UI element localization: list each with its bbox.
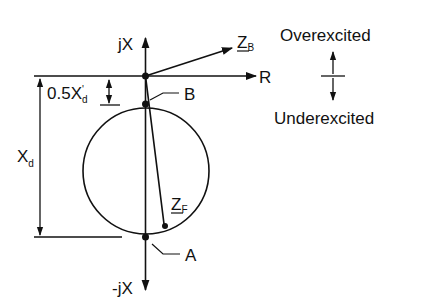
overexcited-label: Overexcited (280, 26, 371, 45)
impedance-diagram: R jX -jX 0.5X'd Xd ZB ZF B A Overexcited… (0, 0, 423, 301)
point-a (142, 234, 149, 241)
zf-label: ZF (171, 195, 188, 215)
b-leader-line (150, 93, 179, 100)
diameter-label: Xd (17, 147, 34, 169)
underexcited-label: Underexcited (274, 109, 374, 128)
r-axis-label: R (259, 68, 271, 87)
zb-vector (146, 48, 233, 76)
zf-endpoint (162, 223, 168, 229)
a-leader-line (152, 244, 180, 254)
neg-jx-axis-label: -jX (112, 279, 133, 298)
jx-axis-label: jX (117, 35, 133, 54)
point-a-label: A (185, 246, 197, 265)
origin-point (142, 73, 149, 80)
zb-label: ZB (237, 33, 254, 53)
point-b (142, 101, 149, 108)
zf-vector (146, 76, 165, 224)
point-b-label: B (184, 85, 195, 104)
offset-label: 0.5X'd (47, 84, 87, 105)
